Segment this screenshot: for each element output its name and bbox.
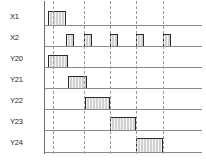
- time-marker-line-4: [136, 1, 137, 154]
- pulse-y23-1: [110, 117, 136, 130]
- signal-label-x1: X1: [10, 13, 19, 21]
- pulse-y24-1: [136, 138, 163, 152]
- time-marker-line-1: [53, 1, 54, 154]
- time-axis: [44, 1, 45, 154]
- signal-label-x2: X2: [10, 34, 19, 42]
- pulse-y20-1: [48, 55, 68, 67]
- time-marker-line-2: [84, 1, 85, 154]
- signal-baseline-x2: [44, 46, 202, 47]
- signal-baseline-y22: [44, 109, 202, 110]
- pulse-x2-3: [110, 34, 118, 46]
- time-marker-line-3: [110, 1, 111, 154]
- pulse-x2-2: [84, 34, 92, 46]
- time-marker-line-5: [163, 1, 164, 154]
- signal-label-y24: Y24: [10, 139, 23, 147]
- signal-label-y23: Y23: [10, 118, 23, 126]
- signal-label-y20: Y20: [10, 55, 23, 63]
- signal-label-y21: Y21: [10, 76, 23, 84]
- signal-baseline-x1: [44, 25, 202, 26]
- pulse-x2-4: [136, 34, 144, 46]
- signal-baseline-y23: [44, 130, 202, 131]
- signal-baseline-y24: [44, 152, 202, 153]
- signal-baseline-y20: [44, 67, 202, 68]
- signal-label-y22: Y22: [10, 97, 23, 105]
- pulse-x1-1: [48, 11, 66, 25]
- pulse-y22-1: [85, 97, 110, 109]
- pulse-x2-5: [163, 34, 171, 46]
- timing-diagram: X1X2Y20Y21Y22Y23Y24: [0, 0, 206, 160]
- pulse-x2-1: [66, 34, 74, 46]
- signal-baseline-y21: [44, 88, 202, 89]
